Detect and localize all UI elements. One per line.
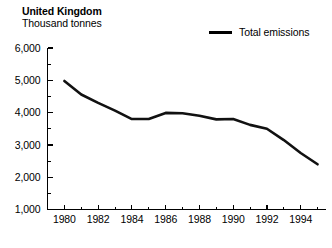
y-tick-label: 2,000: [15, 171, 41, 183]
x-tick-labels: 19801982198419861988199019921994: [53, 213, 313, 225]
series-total-emissions: [64, 81, 317, 164]
x-tick-label: 1984: [120, 213, 143, 225]
data-series-group: [64, 81, 317, 164]
x-tick-label: 1992: [255, 213, 278, 225]
y-tick-label: 3,000: [15, 139, 41, 151]
chart-figure: United Kingdom Thousand tonnes Total emi…: [0, 0, 332, 248]
x-axis: 19801982198419861988199019921994: [47, 205, 326, 225]
x-tick-label: 1988: [188, 213, 211, 225]
y-tick-label: 5,000: [15, 74, 41, 86]
y-axis: 1,0002,0003,0004,0005,0006,000: [15, 42, 53, 216]
y-tick-labels: 1,0002,0003,0004,0005,0006,000: [15, 42, 41, 216]
y-tick-marks: [48, 48, 53, 210]
y-tick-label: 4,000: [15, 106, 41, 118]
x-tick-label: 1986: [154, 213, 177, 225]
x-tick-label: 1994: [289, 213, 312, 225]
x-tick-label: 1990: [222, 213, 245, 225]
x-tick-marks: [48, 205, 318, 210]
plot-area: 1,0002,0003,0004,0005,0006,000 198019821…: [0, 0, 332, 248]
x-tick-label: 1980: [53, 213, 76, 225]
y-tick-label: 1,000: [15, 203, 41, 215]
y-tick-label: 6,000: [15, 42, 41, 54]
x-tick-label: 1982: [87, 213, 110, 225]
